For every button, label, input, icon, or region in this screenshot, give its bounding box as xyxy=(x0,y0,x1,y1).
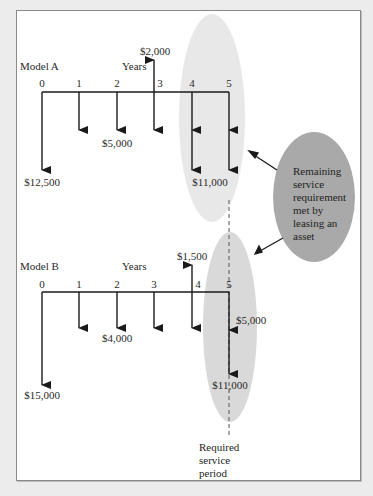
model-b-year-2: 2 xyxy=(114,278,120,290)
callout-text: Remaining service requirement met by lea… xyxy=(293,165,346,243)
model-a-year-1: 1 xyxy=(76,77,82,89)
service-period-label: Required service period xyxy=(199,441,239,480)
model-b-year-5: 5 xyxy=(226,278,232,290)
model-b-year-3: 3 xyxy=(151,278,157,290)
model-b-years-label: Years xyxy=(122,260,147,272)
model-a-overhaul-label: $11,000 xyxy=(192,176,227,188)
model-a-year-3: 3 xyxy=(157,77,163,89)
model-a-annual-label: $5,000 xyxy=(102,137,132,149)
model-a-year-5: 5 xyxy=(226,77,232,89)
model-a-years-label: Years xyxy=(122,60,147,72)
model-a-initial-label: $12,500 xyxy=(24,176,60,188)
model-b-lease-label: $5,000 xyxy=(236,314,266,326)
model-b-year-1: 1 xyxy=(76,278,82,290)
model-b-annual-label: $4,000 xyxy=(102,332,132,344)
model-b-highlight-ellipse xyxy=(203,232,257,422)
model-b-salvage-label: $1,500 xyxy=(177,250,207,262)
model-a-highlight-ellipse xyxy=(179,14,245,222)
model-a-year-4: 4 xyxy=(189,77,195,89)
model-b-initial-label: $15,000 xyxy=(24,389,60,401)
model-a-year-2: 2 xyxy=(114,77,120,89)
model-a-label: Model A xyxy=(20,60,59,72)
model-b-overhaul-label: $11,000 xyxy=(212,379,247,391)
model-b-year-0: 0 xyxy=(39,278,45,290)
model-a-salvage-label: $2,000 xyxy=(140,45,170,57)
model-b-year-4: 4 xyxy=(195,278,201,290)
model-b-label: Model B xyxy=(20,260,59,272)
model-a-year-0: 0 xyxy=(39,77,45,89)
cash-flow-diagram xyxy=(0,0,373,496)
